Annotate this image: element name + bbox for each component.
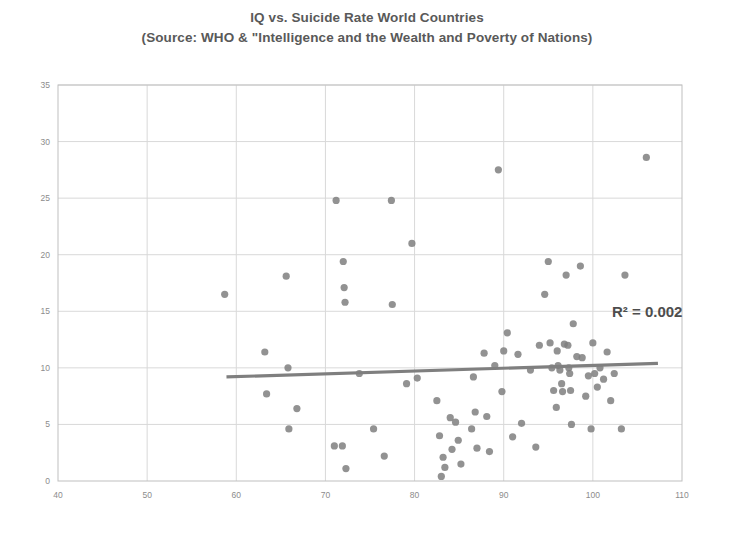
data-point — [468, 425, 475, 432]
x-axis-tick-label: 40 — [38, 490, 78, 500]
data-point-group — [221, 154, 650, 480]
data-point — [594, 383, 601, 390]
data-point — [221, 291, 228, 298]
data-point — [545, 258, 552, 265]
data-point — [481, 350, 488, 357]
data-point — [568, 421, 575, 428]
data-point — [541, 291, 548, 298]
data-point — [455, 437, 462, 444]
data-point — [504, 329, 511, 336]
data-point — [577, 262, 584, 269]
data-point — [564, 342, 571, 349]
x-axis-tick-label: 80 — [395, 490, 435, 500]
data-point — [591, 370, 598, 377]
x-axis-tick-label: 50 — [127, 490, 167, 500]
data-point — [436, 432, 443, 439]
chart-container: IQ vs. Suicide Rate World Countries (Sou… — [0, 0, 734, 535]
y-axis-tick-label: 15 — [10, 306, 50, 316]
y-axis-tick-label: 5 — [10, 419, 50, 429]
data-point — [553, 404, 560, 411]
data-point — [585, 372, 592, 379]
y-axis-tick-label: 30 — [10, 137, 50, 147]
y-axis-tick-label: 10 — [10, 363, 50, 373]
data-point — [621, 271, 628, 278]
data-point — [509, 433, 516, 440]
x-axis-tick-label: 100 — [573, 490, 613, 500]
data-point — [607, 397, 614, 404]
r-squared-text: R² = 0.002 — [612, 303, 682, 320]
data-point — [341, 284, 348, 291]
data-point — [582, 393, 589, 400]
data-point — [263, 390, 270, 397]
data-point — [441, 464, 448, 471]
data-point — [457, 460, 464, 467]
data-point — [408, 240, 415, 247]
data-point — [558, 380, 565, 387]
data-point — [486, 448, 493, 455]
data-point — [643, 154, 650, 161]
data-point — [600, 376, 607, 383]
data-point — [570, 320, 577, 327]
data-point — [285, 425, 292, 432]
data-point — [559, 388, 566, 395]
data-point — [563, 271, 570, 278]
data-point — [473, 445, 480, 452]
data-point — [433, 397, 440, 404]
scatter-plot-area — [0, 0, 734, 535]
data-point — [370, 425, 377, 432]
data-point — [550, 387, 557, 394]
data-point — [546, 339, 553, 346]
data-point — [536, 342, 543, 349]
y-axis-tick-label: 35 — [10, 80, 50, 90]
data-point — [518, 420, 525, 427]
data-point — [388, 197, 395, 204]
data-point — [495, 166, 502, 173]
y-axis-tick-label: 20 — [10, 250, 50, 260]
r-squared-annotation: R² = 0.002 — [612, 303, 682, 320]
plot-border — [58, 85, 682, 481]
data-point — [567, 387, 574, 394]
data-point — [579, 354, 586, 361]
data-point — [554, 347, 561, 354]
data-point — [439, 454, 446, 461]
data-point — [283, 273, 290, 280]
data-point — [438, 473, 445, 480]
data-point — [532, 443, 539, 450]
data-point — [587, 425, 594, 432]
data-point — [284, 364, 291, 371]
data-point — [293, 405, 300, 412]
data-point — [331, 442, 338, 449]
data-point — [566, 370, 573, 377]
y-axis-tick-label: 25 — [10, 193, 50, 203]
data-point — [589, 339, 596, 346]
data-point — [452, 419, 459, 426]
data-point — [448, 446, 455, 453]
data-point — [470, 373, 477, 380]
data-point — [514, 351, 521, 358]
data-point — [500, 347, 507, 354]
data-point — [403, 380, 410, 387]
data-point — [341, 299, 348, 306]
data-point — [389, 301, 396, 308]
data-point — [618, 425, 625, 432]
data-point — [261, 348, 268, 355]
data-point — [340, 258, 347, 265]
data-point — [381, 453, 388, 460]
data-point — [342, 465, 349, 472]
data-point — [414, 374, 421, 381]
data-point — [498, 388, 505, 395]
x-axis-tick-label: 110 — [662, 490, 702, 500]
data-point — [472, 408, 479, 415]
y-axis-tick-label: 0 — [10, 476, 50, 486]
x-axis-tick-label: 90 — [484, 490, 524, 500]
data-point — [333, 197, 340, 204]
x-axis-tick-label: 70 — [305, 490, 345, 500]
data-point — [611, 370, 618, 377]
data-point — [339, 442, 346, 449]
data-point — [604, 348, 611, 355]
x-axis-tick-label: 60 — [216, 490, 256, 500]
data-point — [483, 413, 490, 420]
